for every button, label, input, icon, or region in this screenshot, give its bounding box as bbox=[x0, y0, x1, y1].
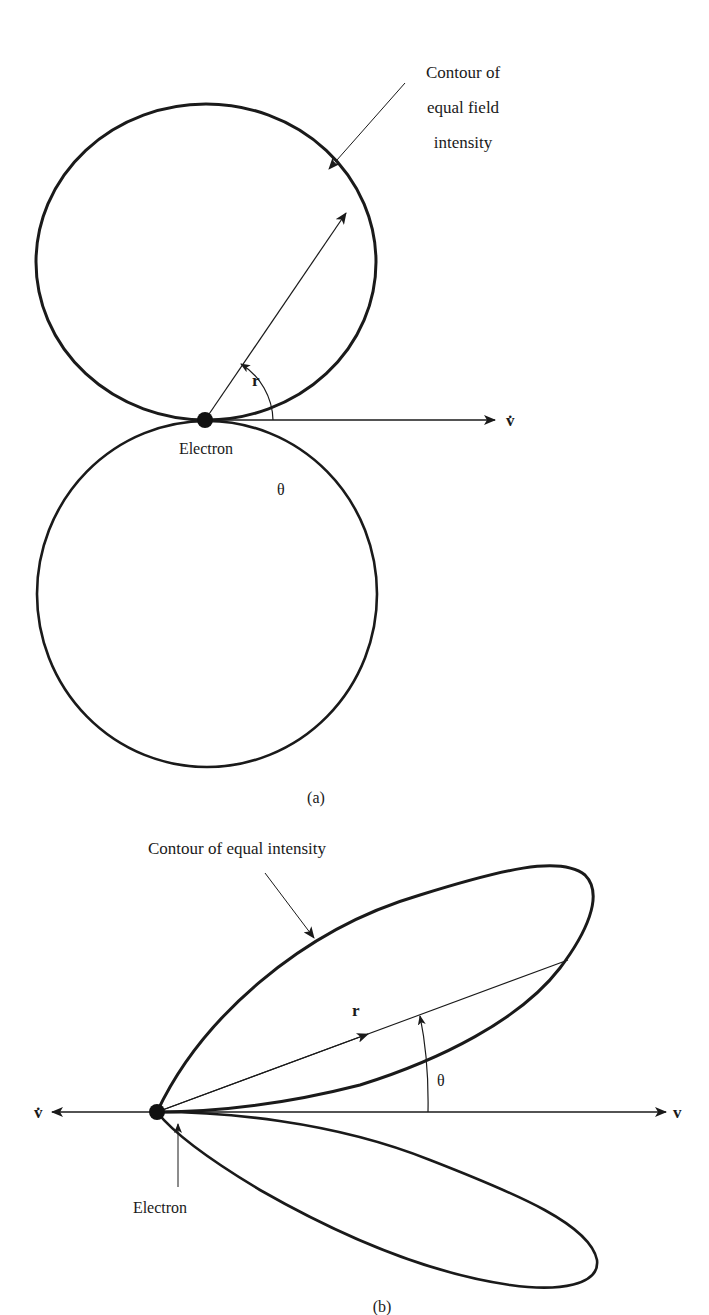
contour-pointer-arrow-b bbox=[265, 873, 314, 938]
contour-label-line-1: Contour of bbox=[426, 63, 500, 82]
electron-label-b: Electron bbox=[133, 1199, 187, 1216]
figure-b: Contour of equal intensity r θ v̇ v Elec… bbox=[34, 839, 682, 1315]
radius-label: r bbox=[252, 371, 260, 390]
electron-dot-b bbox=[149, 1104, 165, 1120]
electron-label: Electron bbox=[179, 440, 233, 457]
radiation-pattern-diagram: Contour of equal field intensity r θ v̇ … bbox=[0, 0, 709, 1315]
lower-lobe-contour bbox=[37, 421, 377, 767]
velocity-label: v bbox=[673, 1103, 682, 1122]
figure-a: Contour of equal field intensity r θ v̇ … bbox=[36, 63, 515, 807]
radius-label-b: r bbox=[352, 1001, 360, 1020]
contour-label-line-3: intensity bbox=[434, 133, 493, 152]
contour-pointer-arrow bbox=[329, 83, 405, 169]
upper-lobe-contour bbox=[36, 104, 376, 420]
acceleration-label: v̇ bbox=[506, 411, 515, 430]
radius-arrow-b bbox=[157, 1034, 368, 1112]
caption-a: (a) bbox=[307, 789, 325, 807]
theta-label-b: θ bbox=[437, 1072, 445, 1089]
caption-b: (b) bbox=[373, 1298, 392, 1315]
upper-lobe-contour-b bbox=[157, 866, 593, 1112]
contour-label-b: Contour of equal intensity bbox=[148, 839, 327, 858]
theta-label: θ bbox=[277, 481, 285, 498]
lower-lobe-contour-b bbox=[157, 1112, 597, 1288]
acceleration-label-b: v̇ bbox=[34, 1103, 43, 1122]
radius-vector bbox=[205, 213, 346, 420]
contour-label-line-2: equal field bbox=[427, 98, 500, 117]
electron-dot bbox=[197, 412, 213, 428]
